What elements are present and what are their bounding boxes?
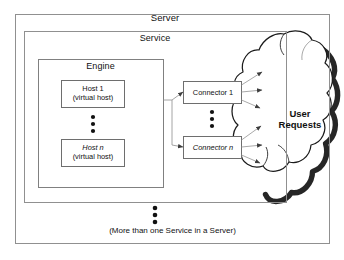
footer-note: (More than one Service in a Server) [15,226,330,235]
host-1-line1: Host 1 [62,84,124,93]
engine-box-label: Engine [38,61,163,71]
user-requests-line2: Requests [272,119,328,130]
host-n-line1: Host n [62,143,124,152]
hosts-vertical-ellipsis [91,115,95,133]
diagram-canvas: Server Service Engine Host 1 (virtual ho… [0,0,344,260]
server-box-label: Server [0,13,330,24]
host-n-label: Host n (virtual host) [62,143,124,162]
services-vertical-ellipsis [153,206,158,225]
cloud-outline [232,31,332,171]
user-requests-label: User Requests [272,108,328,130]
user-requests-line1: User [272,108,328,119]
host-n-line2: (virtual host) [62,152,124,161]
engine-to-connector-links [164,92,184,147]
host-1-line2: (virtual host) [62,93,124,102]
engine-box [39,60,164,188]
host-1-label: Host 1 (virtual host) [62,84,124,103]
service-box-label: Service [24,33,286,43]
connector-n-label: Connector n [184,143,242,152]
connectors-vertical-ellipsis [210,110,214,128]
connector-1-label: Connector 1 [184,88,242,97]
